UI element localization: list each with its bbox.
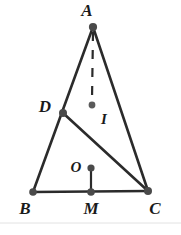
point-A: [89, 23, 97, 31]
point-D: [59, 109, 67, 117]
label-I: I: [100, 111, 108, 127]
label-M: M: [82, 199, 99, 218]
label-C: C: [149, 199, 161, 218]
point-C: [144, 187, 152, 195]
point-M: [87, 188, 95, 196]
label-D: D: [38, 97, 51, 116]
label-O: O: [71, 159, 82, 175]
point-I: [89, 102, 96, 109]
label-B: B: [18, 199, 30, 218]
label-A: A: [80, 1, 92, 20]
segment-AI: [92, 32, 93, 100]
point-O: [87, 164, 94, 171]
figure-dashed-edges: [92, 32, 93, 100]
point-B: [29, 188, 37, 196]
geometry-figure: A B C D I O M: [0, 0, 181, 235]
figure-canvas: A B C D I O M: [0, 0, 181, 235]
